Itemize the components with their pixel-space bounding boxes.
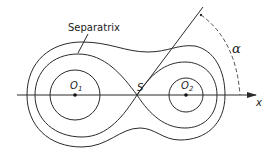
x-axis-label: x [255,97,262,108]
focus-2-point [184,93,188,97]
separatrix-diagram: Separatrix O1 O2 S x α [0,0,280,158]
arc-start-mark [200,14,202,16]
focus-1-point [73,93,77,97]
separatrix-label: Separatrix [68,22,120,33]
angle-label: α [232,41,241,56]
focus-2-label: O2 [181,80,194,93]
separatrix-leader [78,34,88,53]
angle-ray [137,7,203,95]
saddle-point-label: S [137,82,144,93]
focus-1-label: O1 [70,80,82,93]
